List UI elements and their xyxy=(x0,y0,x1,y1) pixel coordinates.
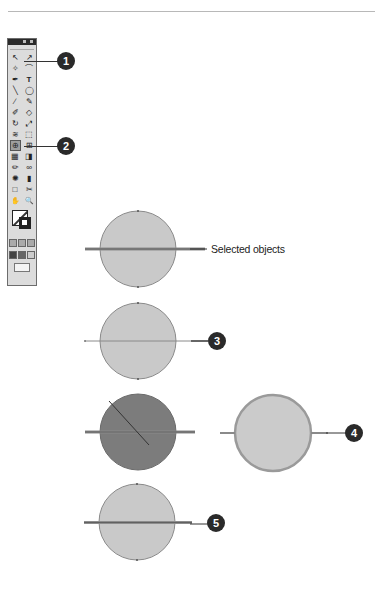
selected-objects-group xyxy=(85,210,207,288)
step-3-group xyxy=(84,302,208,380)
selected-objects-label: Selected objects xyxy=(211,243,285,255)
step-4-group xyxy=(220,395,346,471)
callout-4-badge: 4 xyxy=(345,424,363,442)
artwork-canvas xyxy=(0,0,388,594)
step-5-group xyxy=(84,483,208,561)
callout-3-badge: 3 xyxy=(208,332,226,350)
callout-5-badge: 5 xyxy=(207,514,225,532)
step-live-paint-dark xyxy=(85,394,195,470)
